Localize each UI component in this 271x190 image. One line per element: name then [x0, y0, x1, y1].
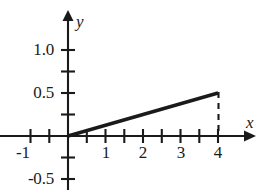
x-axis-label: x [246, 114, 254, 131]
y-tick-label-1: 1.0 [8, 41, 54, 58]
y-axis-arrowhead [63, 10, 74, 21]
x-tick-label-1: 1 [94, 144, 118, 161]
x-tick-label-3: 3 [169, 144, 193, 161]
graph-figure: 1.0 0.5 -0.5 -1 1 2 3 4 y x [0, 0, 271, 190]
x-axis-arrowhead [244, 131, 256, 142]
y-tick-label-neg0point5: -0.5 [2, 170, 54, 187]
x-tick-label-neg1: -1 [11, 144, 35, 161]
x-tick-label-2: 2 [131, 144, 155, 161]
x-tick-label-4: 4 [206, 144, 230, 161]
y-tick-label-0point5: 0.5 [8, 84, 54, 101]
y-axis [63, 10, 74, 190]
y-axis-label: y [76, 13, 84, 30]
